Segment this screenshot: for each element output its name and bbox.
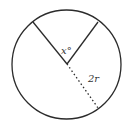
angle-label: x° bbox=[61, 45, 72, 56]
circle-diagram: x° 2r bbox=[0, 0, 125, 129]
diagram-canvas: x° 2r bbox=[0, 0, 125, 129]
radius-line-right bbox=[67, 22, 98, 64]
radius-label: 2r bbox=[87, 73, 100, 84]
circle-outline bbox=[12, 10, 121, 119]
radius-line-dotted bbox=[67, 64, 98, 108]
radius-line-left bbox=[33, 22, 67, 64]
